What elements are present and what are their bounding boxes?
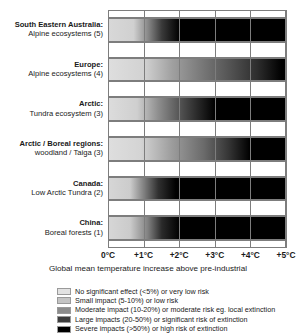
row-ecosystem-name: woodland / Taiga (3) — [0, 148, 103, 157]
row-label-3: Arctic:Tundra ecosystem (3) — [0, 99, 103, 118]
legend-item-3: Moderate impact (10-20%) or moderate ris… — [57, 306, 296, 315]
ember-band — [108, 137, 286, 161]
row-ecosystem-name: Low Arctic Tundra (2) — [0, 188, 103, 197]
ember-band — [108, 177, 286, 201]
x-tick-label-3: +3°C — [205, 250, 224, 260]
gridline-0 — [108, 10, 109, 248]
grid-spacer-row — [108, 161, 286, 177]
legend-label-4: Large impacts (20-50%) or significant ri… — [75, 316, 248, 324]
legend: No significant effect (<5%) or very low … — [57, 287, 296, 334]
plot-area — [108, 10, 286, 248]
gridline-4 — [250, 10, 251, 248]
x-axis-title: Global mean temperature increase above p… — [0, 264, 296, 273]
legend-swatch-5 — [57, 326, 71, 333]
grid-spacer-row — [108, 240, 286, 248]
legend-label-3: Moderate impact (10-20%) or moderate ris… — [75, 306, 275, 314]
ember-band — [108, 97, 286, 121]
ember-gradient — [109, 98, 285, 120]
legend-swatch-4 — [57, 316, 71, 323]
row-ecosystem-name: Tundra ecosystem (3) — [0, 109, 103, 118]
ember-gradient — [109, 59, 285, 81]
x-tick-label-0: 0°C — [101, 250, 115, 260]
row-label-2: Europe:Alpine ecosystems (4) — [0, 60, 103, 79]
ember-gradient — [109, 19, 285, 41]
legend-swatch-1 — [57, 288, 71, 295]
gridline-right-edge — [285, 10, 286, 248]
legend-item-5: Severe impacts (>50%) or high risk of ex… — [57, 325, 296, 334]
x-tick-label-2: +2°C — [170, 250, 189, 260]
ember-band — [108, 216, 286, 240]
grid-spacer-row — [108, 81, 286, 97]
row-region-name: Europe: — [0, 60, 103, 69]
row-label-4: Arctic / Boreal regions:woodland / Taiga… — [0, 139, 103, 158]
row-region-name: China: — [0, 218, 103, 227]
row-region-name: Canada: — [0, 179, 103, 188]
row-ecosystem-name: Boreal forests (1) — [0, 228, 103, 237]
row-ecosystem-name: Alpine ecosystems (4) — [0, 69, 103, 78]
gridline-1 — [144, 10, 145, 248]
grid-spacer-row — [108, 42, 286, 58]
grid-spacer-row — [108, 200, 286, 216]
row-region-name: Arctic: — [0, 99, 103, 108]
legend-label-5: Severe impacts (>50%) or high risk of ex… — [75, 325, 227, 333]
climate-risk-embers-chart: South Eastern Australia:Alpine ecosystem… — [0, 0, 296, 336]
ember-gradient — [109, 138, 285, 160]
x-tick-label-4: +4°C — [241, 250, 260, 260]
row-label-1: South Eastern Australia:Alpine ecosystem… — [0, 20, 103, 39]
x-tick-label-5: +5°C — [277, 250, 296, 260]
legend-label-1: No significant effect (<5%) or very low … — [75, 288, 209, 296]
legend-item-4: Large impacts (20-50%) or significant ri… — [57, 315, 296, 324]
gridline-2 — [179, 10, 180, 248]
row-ecosystem-name: Alpine ecosystems (5) — [0, 29, 103, 38]
legend-item-1: No significant effect (<5%) or very low … — [57, 287, 296, 296]
gridline-3 — [215, 10, 216, 248]
grid-spacer-row — [108, 121, 286, 137]
row-label-5: Canada:Low Arctic Tundra (2) — [0, 179, 103, 198]
grid-spacer-row — [108, 10, 286, 18]
row-region-name: Arctic / Boreal regions: — [0, 139, 103, 148]
ember-band — [108, 18, 286, 42]
legend-swatch-2 — [57, 297, 71, 304]
row-region-name: South Eastern Australia: — [0, 20, 103, 29]
legend-label-2: Small impact (5-10%) or low risk — [75, 297, 178, 305]
ember-band — [108, 58, 286, 82]
x-tick-label-1: +1°C — [134, 250, 153, 260]
ember-gradient — [109, 178, 285, 200]
legend-swatch-3 — [57, 307, 71, 314]
ember-gradient — [109, 217, 285, 239]
row-label-6: China:Boreal forests (1) — [0, 218, 103, 237]
legend-item-2: Small impact (5-10%) or low risk — [57, 296, 296, 305]
